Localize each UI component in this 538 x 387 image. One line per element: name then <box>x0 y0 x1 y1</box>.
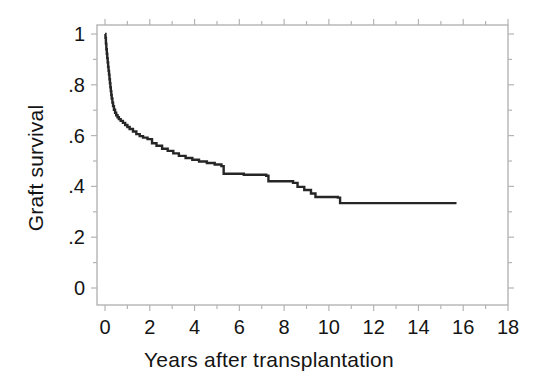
y-tick-label: .6 <box>41 124 85 147</box>
y-tick-label: 0 <box>41 277 85 300</box>
y-tick-label: .4 <box>41 175 85 198</box>
x-tick-label: 16 <box>452 316 474 339</box>
axis-ticks <box>91 19 514 311</box>
y-tick-label: .8 <box>41 73 85 96</box>
y-tick-label: 1 <box>41 23 85 46</box>
x-tick-label: 18 <box>497 316 519 339</box>
plot-frame <box>97 25 508 305</box>
x-axis-label: Years after transplantation <box>0 348 538 372</box>
x-tick-label: 8 <box>279 316 290 339</box>
survival-curve <box>105 34 457 203</box>
x-tick-label: 12 <box>363 316 385 339</box>
survival-chart-figure: Graft survival Years after transplantati… <box>0 0 538 387</box>
x-tick-label: 0 <box>99 316 110 339</box>
x-tick-label: 4 <box>189 316 200 339</box>
x-tick-label: 10 <box>318 316 340 339</box>
x-tick-label: 2 <box>144 316 155 339</box>
y-tick-label: .2 <box>41 226 85 249</box>
x-tick-label: 14 <box>407 316 429 339</box>
x-tick-label: 6 <box>234 316 245 339</box>
